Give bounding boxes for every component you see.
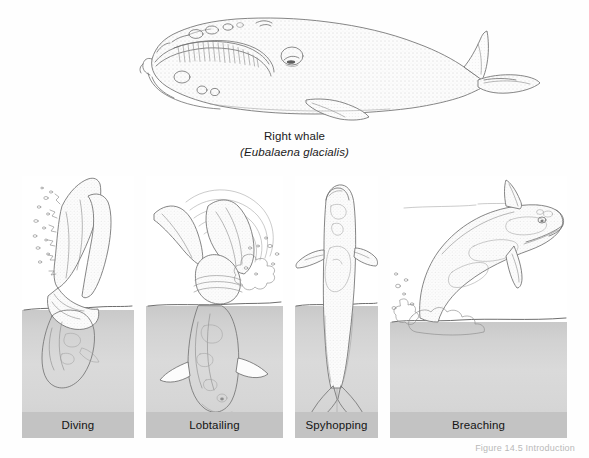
- whale-behaviour-figure: Right whale (Eubalaena glacialis): [0, 0, 589, 458]
- species-common-name: Right whale: [0, 128, 589, 144]
- panel-spyhopping-label: Spyhopping: [295, 412, 378, 438]
- panel-diving-label: Diving: [22, 412, 134, 438]
- panel-spyhopping-artwork: [295, 176, 378, 438]
- panel-lobtailing-label: Lobtailing: [146, 412, 283, 438]
- behaviour-panel-strip: Diving: [0, 176, 589, 438]
- panel-lobtailing-artwork: [146, 176, 283, 438]
- panel-lobtailing: Lobtailing: [146, 176, 283, 438]
- panel-breaching: Breaching: [390, 176, 567, 438]
- species-scientific-name: (Eubalaena glacialis): [0, 144, 589, 160]
- panel-breaching-label: Breaching: [390, 412, 567, 438]
- figure-credit: Figure 14.5 Introduction: [0, 443, 575, 458]
- panel-diving-artwork: [22, 176, 134, 438]
- panel-spyhopping: Spyhopping: [295, 176, 378, 438]
- panel-diving: Diving: [22, 176, 134, 438]
- panel-breaching-artwork: [390, 176, 567, 438]
- right-whale-illustration: [60, 4, 540, 129]
- species-caption: Right whale (Eubalaena glacialis): [0, 128, 589, 160]
